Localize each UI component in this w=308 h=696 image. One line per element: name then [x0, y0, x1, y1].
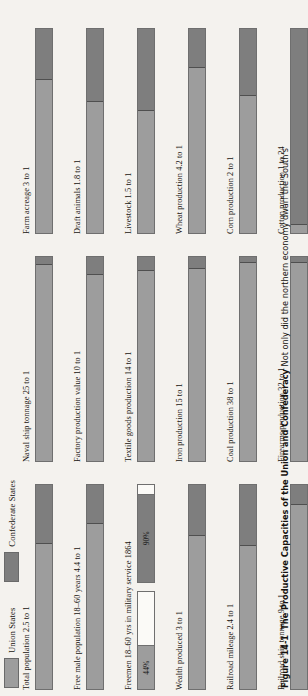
- bar-column-3: Farm acreage 3 to 1Draft animals 1.8 to …: [22, 6, 294, 234]
- bar-label: Railroad mileage 2.4 to 1: [226, 604, 235, 690]
- figure-caption: Figure 14-1 The Productive Capacities of…: [280, 12, 290, 688]
- bar-group: Iron production 15 to 1: [175, 234, 219, 462]
- bar-segment-confederate: [87, 29, 103, 102]
- bar-group: Wheat production 4.2 to 1: [175, 6, 219, 234]
- bar-union-percent-fill: 44%: [138, 646, 154, 689]
- bar-label: Farm acreage 3 to 1: [22, 167, 31, 234]
- bar-column-2: Naval ship tonnage 25 to 1Factory produc…: [22, 234, 294, 462]
- stacked-bar: [239, 256, 257, 462]
- bar-segment-confederate: [291, 485, 294, 505]
- bar-label: Wealth produced 3 to 1: [175, 611, 184, 690]
- bar-segment-confederate: [240, 485, 256, 546]
- stacked-bar: [137, 256, 155, 462]
- caption-title: The Productive Capacities of the Union a…: [280, 369, 290, 630]
- bar-group: Total population 2.5 to 1: [22, 462, 66, 690]
- bar-segment-union: [36, 544, 52, 689]
- bar-group: Wealth produced 3 to 1: [175, 462, 219, 690]
- bar-group: Naval ship tonnage 25 to 1: [22, 234, 66, 462]
- legend-label-union: Union States: [7, 608, 17, 653]
- caption-text: Not only did the northern economy dwarf …: [280, 148, 290, 366]
- bar-segment-union: [291, 263, 294, 461]
- legend-entry-union: Union States: [4, 608, 19, 688]
- bar-segment-union: [138, 271, 154, 461]
- bar-segment-confederate: [138, 257, 154, 271]
- stacked-bar: [239, 28, 257, 234]
- bar-confederate-percent-remainder: [138, 485, 154, 495]
- stacked-bar: [290, 484, 294, 690]
- bar-segment-union: [291, 225, 294, 233]
- bar-segment-confederate: [240, 257, 256, 263]
- bar-segment-confederate: [36, 29, 52, 80]
- bar-group: Coal production 38 to 1: [226, 234, 270, 462]
- stacked-bar: [35, 484, 53, 690]
- bar-group: Railroad mileage 2.4 to 1: [226, 462, 270, 690]
- bar-segment-union: [240, 546, 256, 689]
- bar-label: Textile goods production 14 to 1: [124, 351, 133, 462]
- bar-segment-confederate: [189, 257, 205, 269]
- bar-label: Wheat production 4.2 to 1: [175, 145, 184, 234]
- bar-label: Total population 2.5 to 1: [22, 606, 31, 690]
- bar-group: Freemen 18–60 yrs in military service 18…: [124, 462, 168, 690]
- bar-segment-union: [240, 263, 256, 461]
- bar-segment-union: [36, 80, 52, 233]
- stacked-bar: [188, 484, 206, 690]
- bar-label: Free male population 18–60 years 4.4 to …: [73, 547, 82, 690]
- bar-segment-confederate: [291, 257, 294, 263]
- stacked-bar: [188, 256, 206, 462]
- bar-label: Coal production 38 to 1: [226, 381, 235, 462]
- bar-label: Iron production 15 to 1: [175, 383, 184, 462]
- bar-confederate-percent-fill: 90%: [138, 495, 154, 582]
- stacked-bar: [35, 28, 53, 234]
- chart-legend: Union States Confederate States: [4, 480, 19, 688]
- bar-group: Livestock 1.5 to 1: [124, 6, 168, 234]
- stacked-bar: [35, 256, 53, 462]
- chart-columns: Total population 2.5 to 1Free male popul…: [22, 6, 294, 690]
- bar-segment-confederate: [189, 29, 205, 68]
- stacked-bar: [290, 28, 294, 234]
- bar-segment-union: [291, 505, 294, 689]
- stacked-bar: [239, 484, 257, 690]
- bar-segment-confederate: [189, 485, 205, 536]
- bar-group: Factory production value 10 to 1: [73, 234, 117, 462]
- bar-label: Freemen 18–60 yrs in military service 18…: [124, 541, 133, 690]
- bar-segment-confederate: [291, 29, 294, 225]
- legend-swatch-confederate-icon: [4, 552, 19, 582]
- bar-segment-confederate: [87, 485, 103, 524]
- bar-group: Farm acreage 3 to 1: [22, 6, 66, 234]
- bar-segment-confederate: [138, 29, 154, 111]
- stacked-bar: [86, 256, 104, 462]
- bar-segment-union: [87, 524, 103, 689]
- bar-label: Factory production value 10 to 1: [73, 351, 82, 462]
- bar-union-percent: 44%: [137, 591, 155, 690]
- bar-segment-union: [36, 265, 52, 461]
- bar-group: Textile goods production 14 to 1: [124, 234, 168, 462]
- bar-group: Corn production 2 to 1: [226, 6, 270, 234]
- bar-label: Naval ship tonnage 25 to 1: [22, 371, 31, 462]
- bar-confederate-percent: 90%: [137, 484, 155, 583]
- bar-segment-confederate: [36, 485, 52, 544]
- rotated-page-stage: Union States Confederate States Total po…: [0, 0, 294, 696]
- bar-segment-confederate: [240, 29, 256, 96]
- bar-segment-union: [87, 102, 103, 233]
- bar-segment-union: [189, 536, 205, 689]
- bar-segment-union: [189, 68, 205, 233]
- figure-14-1: Union States Confederate States Total po…: [0, 0, 294, 696]
- bar-label: Livestock 1.5 to 1: [124, 173, 133, 234]
- bar-group: Draft animals 1.8 to 1: [73, 6, 117, 234]
- stacked-bar: [188, 28, 206, 234]
- bar-group: Free male population 18–60 years 4.4 to …: [73, 462, 117, 690]
- stacked-bar: [290, 256, 294, 462]
- bar-segment-union: [189, 269, 205, 461]
- legend-label-confederate: Confederate States: [7, 480, 17, 546]
- bar-label: Corn production 2 to 1: [226, 157, 235, 234]
- bar-segment-confederate: [36, 257, 52, 265]
- bar-union-percent-remainder: [138, 592, 154, 646]
- bar-segment-confederate: [87, 257, 103, 275]
- caption-figure-number: Figure 14-1: [280, 635, 290, 688]
- bar-column-1: Total population 2.5 to 1Free male popul…: [22, 462, 294, 690]
- bar-segment-union: [138, 111, 154, 233]
- legend-swatch-union-icon: [4, 658, 19, 688]
- bar-segment-union: [87, 275, 103, 461]
- stacked-bar: [86, 484, 104, 690]
- bar-label: Draft animals 1.8 to 1: [73, 160, 82, 234]
